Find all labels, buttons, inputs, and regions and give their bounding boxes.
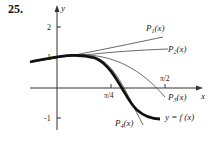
problem-number: 25. <box>8 2 23 16</box>
y-tick-label-2: 2 <box>47 23 51 32</box>
series-f-line <box>30 55 160 119</box>
label-p4: P4(x) <box>114 118 134 129</box>
x-tick-label-pi2: π/2 <box>160 74 170 83</box>
label-p3: P3(x) <box>167 92 187 103</box>
x-axis-arrow-icon <box>196 86 203 91</box>
y-tick-label-neg1: -1 <box>44 114 51 123</box>
y-axis-arrow-icon <box>55 5 60 12</box>
x-tick-label-pi4: π/4 <box>104 91 114 100</box>
label-p2: P2(x) <box>167 44 187 55</box>
taylor-polynomial-chart: 25. y x 2 1 -1 π/4 π/2 P1(x) P2(x) P3(x)… <box>0 0 215 141</box>
y-axis-label: y <box>60 3 65 13</box>
label-p1: P1(x) <box>145 23 165 34</box>
x-axis-label: x <box>200 91 205 101</box>
label-f: y = f (x) <box>164 112 194 122</box>
